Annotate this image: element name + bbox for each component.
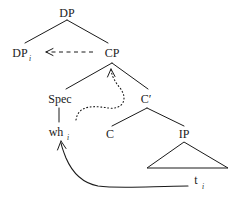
tree-canvas: DP DP i CP Spec C′ wh i C IP t i [0, 0, 242, 203]
branch-cp-to-spec [66, 63, 112, 89]
node-label-dp-moved: DP [12, 46, 28, 60]
node-label-cp: CP [105, 46, 120, 60]
node-label-ip: IP [179, 127, 190, 141]
node-label-c-head: C [106, 127, 114, 141]
syntax-tree-diagram: DP DP i CP Spec C′ wh i C IP t i [0, 0, 242, 203]
node-label-cbar: C′ [141, 92, 152, 106]
c-to-cp-dotted-arrow [76, 69, 124, 120]
cp-to-dp-dashed-arrow [46, 49, 93, 56]
node-subscript-trace: i [202, 182, 204, 191]
node-label-trace: t [194, 173, 198, 187]
ip-triangle [147, 142, 228, 168]
solid-arrow-curve [61, 143, 188, 187]
node-label-wh: wh [49, 125, 64, 139]
node-label-root-dp: DP [59, 6, 75, 20]
branch-cbar-to-ip [147, 108, 184, 126]
branch-dp-to-dpi [25, 20, 67, 43]
branch-cbar-to-c [112, 108, 147, 126]
branch-dp-to-cp [67, 20, 108, 43]
branch-cp-to-cbar [112, 63, 148, 89]
node-label-spec: Spec [48, 92, 71, 106]
node-subscript-dp-moved: i [29, 54, 31, 63]
dotted-arrow-head [108, 69, 116, 77]
trace-to-wh-solid-arrow [58, 141, 189, 187]
node-subscript-wh: i [67, 133, 69, 142]
dotted-arrow-curve [76, 70, 124, 120]
